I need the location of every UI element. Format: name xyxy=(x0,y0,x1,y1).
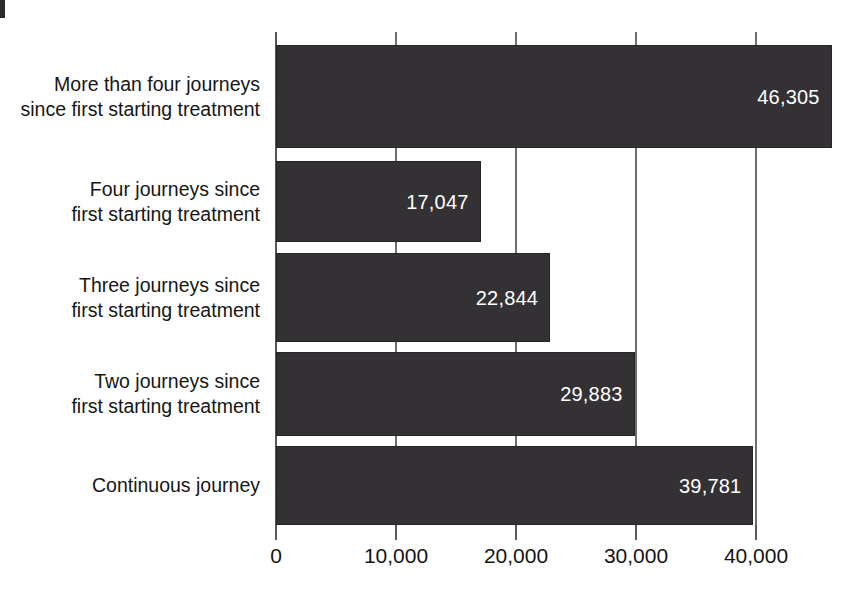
x-axis-tick xyxy=(395,525,397,540)
category-label: Continuous journey xyxy=(92,446,260,525)
bar-row: 22,844 xyxy=(276,253,756,342)
category-label: More than four journeyssince first start… xyxy=(20,45,260,148)
x-axis-tick-label: 30,000 xyxy=(604,544,668,568)
category-label: Two journeys sincefirst starting treatme… xyxy=(71,352,260,436)
bar-value-label: 22,844 xyxy=(476,286,538,309)
category-label-line: Continuous journey xyxy=(92,473,260,498)
category-label: Three journeys sincefirst starting treat… xyxy=(71,253,260,342)
category-label-line: first starting treatment xyxy=(71,298,260,323)
x-axis-tick xyxy=(515,525,517,540)
category-axis-labels: More than four journeyssince first start… xyxy=(0,32,268,525)
category-label-line: Two journeys since xyxy=(94,369,260,394)
bar-row: 39,781 xyxy=(276,446,756,525)
x-axis-tick-label: 10,000 xyxy=(364,544,428,568)
category-label-line: first starting treatment xyxy=(71,202,260,227)
x-axis-tick-label: 0 xyxy=(270,544,282,568)
bars-group: 46,30517,04722,84429,88339,781 xyxy=(276,32,756,525)
category-label-line: Three journeys since xyxy=(79,273,260,298)
bar-chart-figure: 46,30517,04722,84429,88339,781 More than… xyxy=(0,0,859,593)
x-axis-tick-label: 40,000 xyxy=(724,544,788,568)
scan-artifact-mark xyxy=(0,0,5,18)
x-axis-tick xyxy=(635,525,637,540)
category-label-line: More than four journeys xyxy=(54,72,260,97)
bar-row: 29,883 xyxy=(276,352,756,436)
bar-value-label: 17,047 xyxy=(406,190,468,213)
bar-value-label: 29,883 xyxy=(560,383,622,406)
bar[interactable] xyxy=(276,45,832,148)
category-label-line: first starting treatment xyxy=(71,394,260,419)
x-axis-tick-label: 20,000 xyxy=(484,544,548,568)
category-label-line: since first starting treatment xyxy=(20,97,260,122)
category-label-line: Four journeys since xyxy=(90,177,260,202)
plot-area: 46,30517,04722,84429,88339,781 xyxy=(276,32,756,525)
bar-row: 46,305 xyxy=(276,45,756,148)
x-axis-tick xyxy=(755,525,757,540)
x-axis: 010,00020,00030,00040,000 xyxy=(276,525,756,575)
x-axis-tick xyxy=(275,525,277,540)
bar-value-label: 46,305 xyxy=(757,85,819,108)
bar-row: 17,047 xyxy=(276,161,756,242)
category-label: Four journeys sincefirst starting treatm… xyxy=(71,161,260,242)
bar-value-label: 39,781 xyxy=(679,474,741,497)
